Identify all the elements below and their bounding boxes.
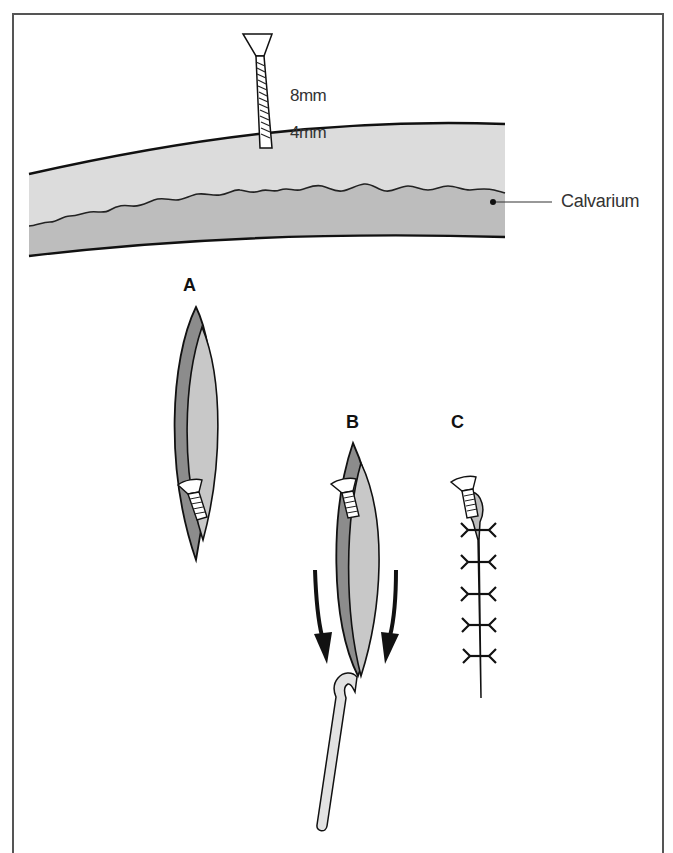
bone-depth-label: 4mm	[290, 123, 326, 143]
step-b-incision	[314, 443, 399, 831]
step-b-label: B	[346, 412, 359, 433]
step-c-label: C	[451, 412, 464, 433]
step-a-label: A	[183, 275, 196, 296]
hook-needle-icon	[317, 673, 357, 831]
screw-icon	[451, 476, 478, 518]
down-arrow-icon	[381, 570, 399, 664]
down-arrow-icon	[314, 570, 332, 664]
screw-length-label: 8mm	[290, 86, 326, 106]
step-c-sutured	[451, 476, 496, 698]
calvarium-label: Calvarium	[561, 191, 639, 212]
screw-icon	[243, 34, 272, 148]
step-a-incision	[175, 307, 218, 560]
